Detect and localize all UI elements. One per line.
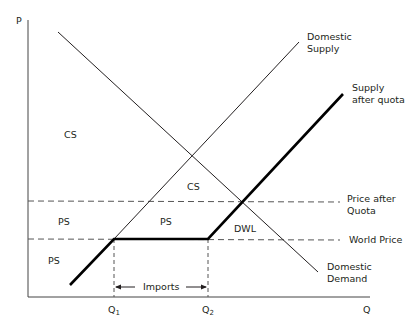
q2-label: Q2 [202, 304, 214, 317]
domestic-demand-label: DomesticDemand [327, 261, 372, 284]
ps-left-mid-label: PS [58, 216, 70, 227]
ps-center-label: PS [160, 216, 172, 227]
cs-upper-label: CS [64, 129, 77, 140]
imports-label: Imports [143, 281, 180, 292]
y-axis-label: P [16, 15, 22, 26]
x-axis-label: Q [363, 304, 370, 315]
supply-after-quota-label: Supplyafter quota [352, 82, 405, 105]
ps-bottom-label: PS [48, 255, 60, 266]
price-after-quota-line [28, 201, 340, 202]
cs-lower-label: CS [187, 181, 200, 192]
price-after-quota-label: Price afterQuota [347, 193, 396, 216]
supply-after-quota-curve [70, 94, 343, 285]
domestic-supply-label: DomesticSupply [307, 31, 352, 54]
q1-label: Q1 [108, 304, 120, 317]
domestic-supply-curve [114, 42, 299, 239]
domestic-demand-curve [58, 32, 318, 272]
quota-diagram: P Q Imports Q1 Q2 DomesticSupply Supplya… [0, 0, 418, 331]
world-price-label: World Price [349, 234, 403, 245]
dwl-label: DWL [234, 223, 257, 234]
